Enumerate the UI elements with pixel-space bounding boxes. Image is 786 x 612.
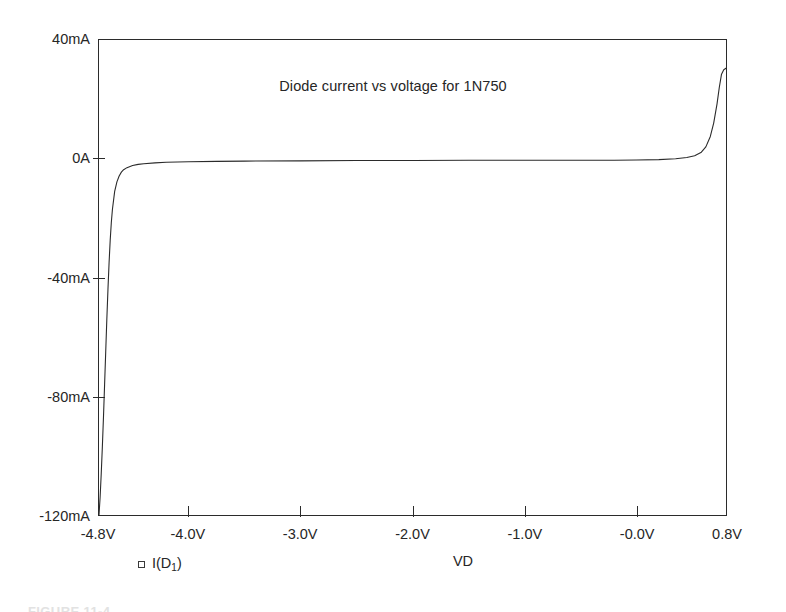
plot-frame <box>98 39 727 516</box>
diode-iv-curve <box>99 40 726 515</box>
x-axis-tick-label: -4.8V <box>81 527 116 542</box>
x-axis-tick-label: -1.0V <box>507 527 542 542</box>
legend-series-label: I(D1) <box>152 556 182 572</box>
legend-label-suffix: ) <box>177 555 182 571</box>
figure-root: Diode current vs voltage for 1N750 40mA0… <box>0 0 786 612</box>
legend[interactable]: I(D1) <box>138 556 182 572</box>
y-axis-tick-label: -40mA <box>0 271 90 286</box>
x-axis-tick-label: 0.8V <box>712 527 742 542</box>
x-axis-tick-mark <box>413 506 414 517</box>
x-axis-tick-label: -2.0V <box>395 527 430 542</box>
y-axis-tick-mark <box>93 397 105 398</box>
x-axis-tick-label: -4.0V <box>171 527 206 542</box>
x-axis-tick-mark <box>637 506 638 517</box>
y-axis-tick-label: -80mA <box>0 390 90 405</box>
legend-square-icon <box>138 561 145 568</box>
x-axis-tick-mark <box>525 506 526 517</box>
x-axis-tick-label: -0.0V <box>620 527 655 542</box>
figure-caption: FIGURE 11-4 <box>28 604 110 612</box>
y-axis-tick-mark <box>93 278 105 279</box>
x-axis-tick-mark <box>188 506 189 517</box>
y-axis-tick-label: -120mA <box>0 509 90 524</box>
y-axis-tick-mark <box>93 158 105 159</box>
y-axis-tick-label: 0A <box>0 151 90 166</box>
x-axis-tick-mark <box>300 506 301 517</box>
legend-label-subscript: 1 <box>171 562 177 573</box>
y-axis-tick-label: 40mA <box>0 32 90 47</box>
legend-label-prefix: I(D <box>152 555 171 571</box>
x-axis-tick-label: -3.0V <box>283 527 318 542</box>
x-axis-label: VD <box>453 554 473 569</box>
